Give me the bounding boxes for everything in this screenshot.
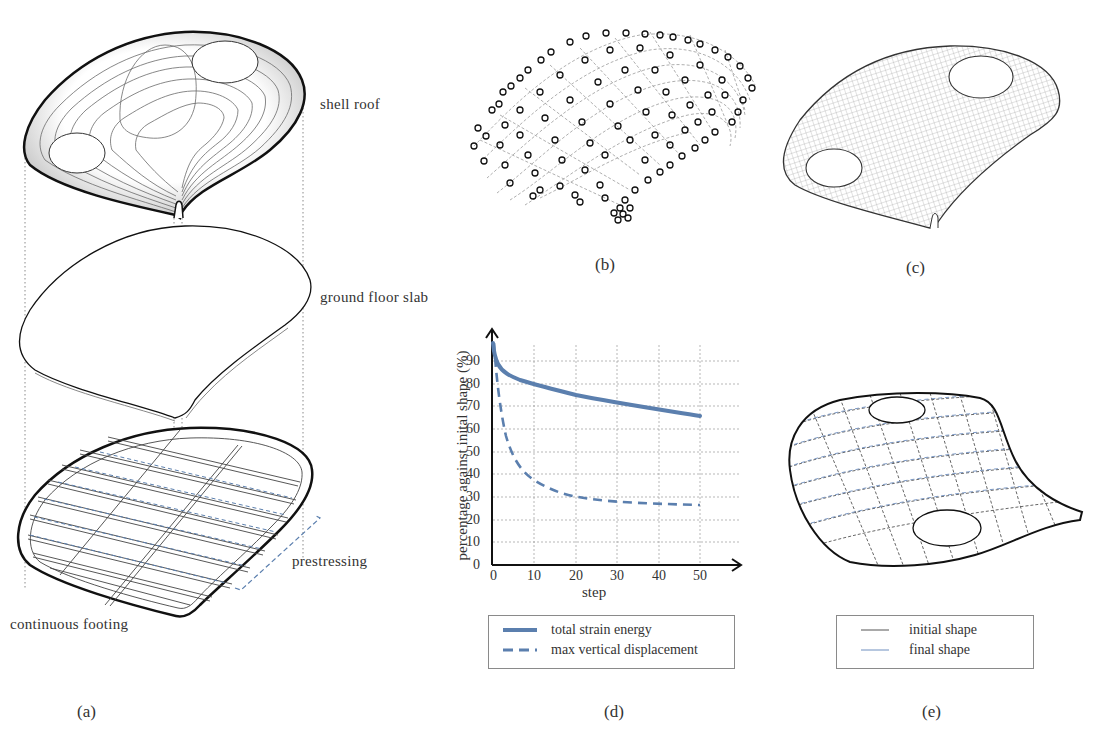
x-tick: 10 bbox=[527, 568, 541, 584]
shell-roof-drawing bbox=[24, 32, 305, 218]
solid-line-swatch-icon bbox=[503, 627, 537, 633]
x-tick: 0 bbox=[490, 568, 497, 584]
series-total-strain-energy bbox=[493, 343, 700, 416]
dashed-line-swatch-icon bbox=[503, 647, 537, 653]
x-axis-label: step bbox=[582, 584, 606, 601]
label-ground-floor-slab: ground floor slab bbox=[320, 289, 428, 306]
legend-item-total-strain-energy: total strain energy bbox=[489, 620, 734, 640]
initial-line-swatch-icon bbox=[861, 628, 895, 632]
legend-label: max vertical displacement bbox=[551, 642, 698, 658]
label-shell-roof: shell roof bbox=[320, 96, 380, 113]
shape-legend: initial shape final shape bbox=[836, 615, 1034, 669]
x-tick: 30 bbox=[610, 568, 624, 584]
caption-b: (b) bbox=[595, 255, 615, 275]
x-tick: 50 bbox=[693, 568, 707, 584]
chart-grid bbox=[493, 345, 740, 565]
caption-c: (c) bbox=[906, 258, 925, 278]
ground-floor-slab-drawing bbox=[19, 226, 311, 421]
legend-label: total strain energy bbox=[551, 622, 652, 638]
legend-item-max-vertical-displacement: max vertical displacement bbox=[489, 640, 734, 660]
series-max-vertical-displacement bbox=[494, 343, 700, 505]
surface-grid bbox=[780, 393, 1075, 570]
legend-item-final-shape: final shape bbox=[837, 640, 1033, 660]
chart-axes bbox=[486, 329, 741, 571]
x-tick: 40 bbox=[652, 568, 666, 584]
control-nodes bbox=[471, 30, 755, 223]
legend-label: initial shape bbox=[909, 622, 977, 638]
y-axis-label: percentage against inital shape (%) bbox=[454, 336, 471, 576]
chart-legend: total strain energy max vertical displac… bbox=[488, 615, 735, 669]
caption-a: (a) bbox=[77, 702, 96, 722]
caption-e: (e) bbox=[922, 702, 941, 722]
legend-label: final shape bbox=[909, 642, 970, 658]
label-prestressing: prestressing bbox=[292, 553, 367, 570]
legend-item-initial-shape: initial shape bbox=[837, 620, 1033, 640]
final-line-swatch-icon bbox=[861, 648, 895, 652]
y-tick: 0 bbox=[473, 557, 480, 573]
x-tick: 20 bbox=[569, 568, 583, 584]
label-continuous-footing: continuous footing bbox=[10, 616, 128, 633]
caption-d: (d) bbox=[604, 702, 624, 722]
continuous-footing-drawing bbox=[18, 428, 320, 617]
